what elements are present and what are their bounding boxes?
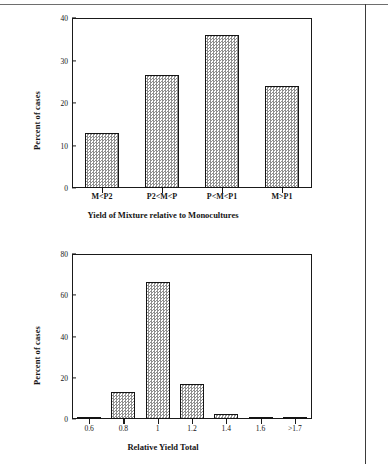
y-tick-label: 0 [0,184,71,193]
x-tick-label: P<M<P1 [207,192,237,201]
x-axis-title-top: Yield of Mixture relative to Monoculture… [0,210,326,220]
y-tick-mark [72,102,76,103]
chart-bottom: Percent of cases 020406080 0.60.811.21.4… [0,240,365,460]
y-tick-label: 60 [0,291,71,300]
y-tick-mark [72,253,76,254]
y-tick-label: 20 [0,373,71,382]
y-tick-label: 0 [0,415,71,424]
x-tick-label: 1.6 [256,424,266,433]
y-tick-mark [72,336,76,337]
y-tick-label: 40 [0,14,71,23]
x-tick-label: >1.7 [288,424,302,433]
page-top-rule [0,4,388,5]
y-tick-mark [72,60,76,61]
x-tick-label: M>P1 [272,192,293,201]
x-tick-label: 1.2 [187,424,197,433]
x-tick-label: 1 [156,424,160,433]
y-tick-label: 80 [0,250,71,259]
y-tick-label: 40 [0,332,71,341]
y-tick-mark [72,295,76,296]
bar [205,35,239,188]
bar [265,86,299,188]
y-tick-mark [72,187,76,188]
x-tick-label: 0.8 [119,424,129,433]
bar [146,282,170,419]
y-tick-mark [72,418,76,419]
x-tick-label: M<P2 [92,192,113,201]
y-tick-label: 30 [0,56,71,65]
y-tick-mark [72,17,76,18]
page-right-rule [365,4,366,464]
x-tick-label: P2<M<P [147,192,177,201]
x-tick-label: 0.6 [84,424,94,433]
x-axis-title-bottom: Relative Yield Total [0,442,326,452]
x-tick-label: 1.4 [222,424,232,433]
bar [145,75,179,188]
y-tick-label: 10 [0,141,71,150]
bar [85,133,119,188]
y-tick-label: 20 [0,99,71,108]
bar [180,384,204,419]
y-tick-mark [72,145,76,146]
chart-top: Percent of cases 010203040 M<P2P2<M<PP<M… [0,10,365,230]
bar [111,392,135,419]
y-tick-mark [72,377,76,378]
figure-page: Percent of cases 010203040 M<P2P2<M<PP<M… [0,0,388,464]
